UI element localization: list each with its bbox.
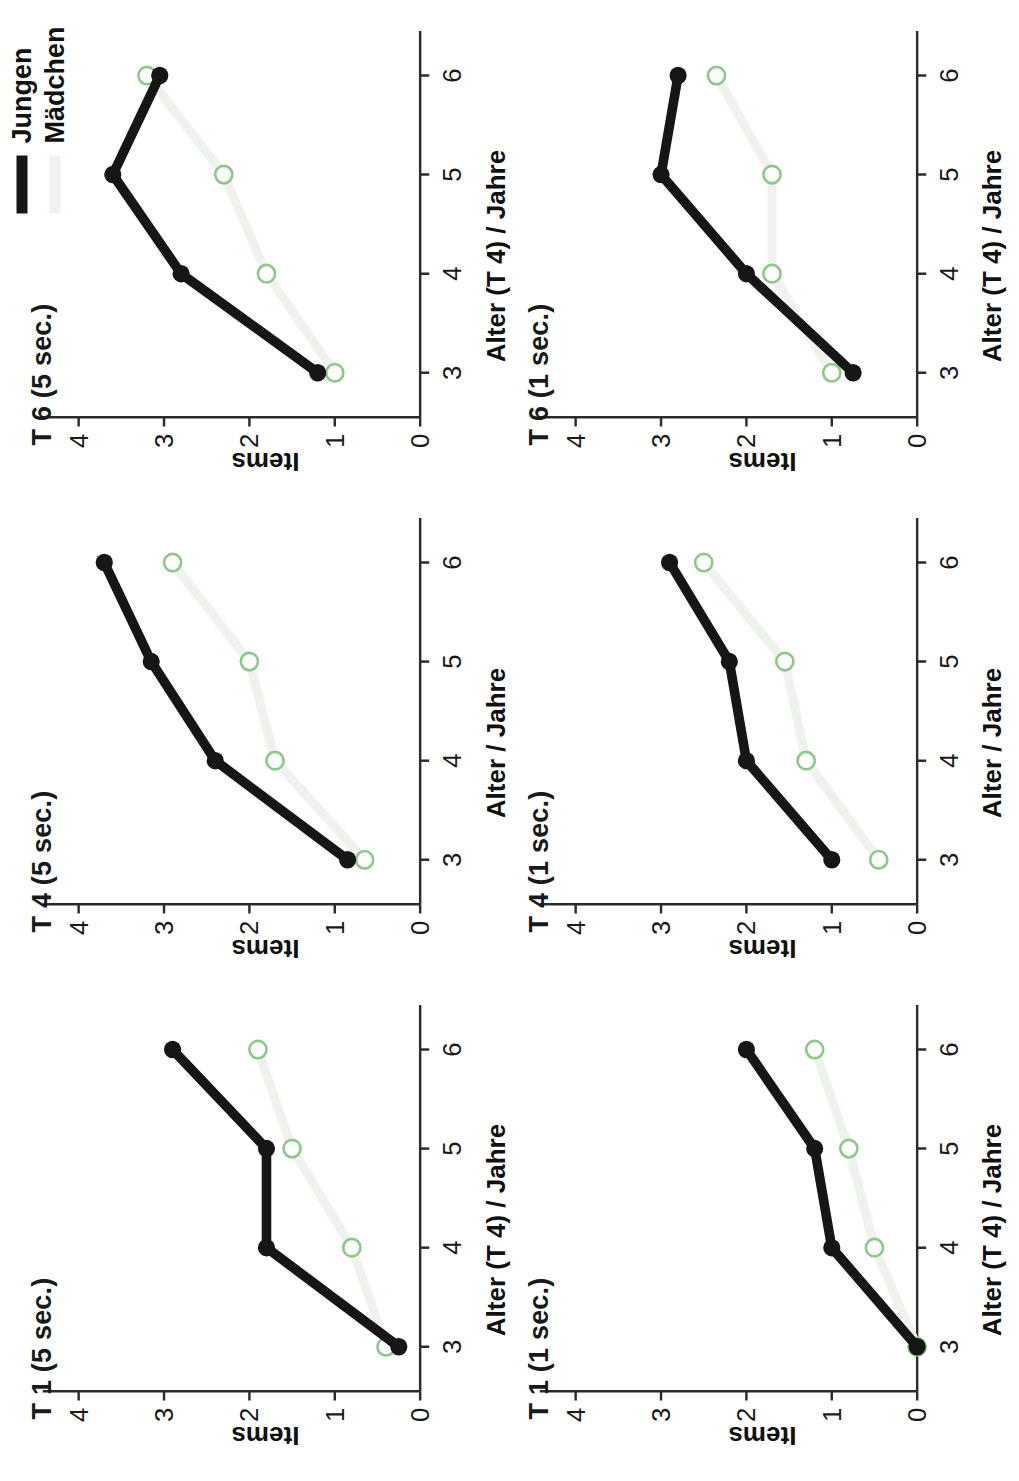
svg-text:4: 4 bbox=[64, 920, 92, 934]
svg-text:0: 0 bbox=[902, 433, 930, 447]
svg-text:0: 0 bbox=[406, 920, 434, 934]
panel-title-t6-5sec: T 6 (5 sec.) bbox=[26, 303, 57, 445]
svg-text:3: 3 bbox=[646, 433, 674, 447]
svg-text:3: 3 bbox=[437, 365, 465, 379]
plot-area-t6-1sec: 012343456 bbox=[515, 14, 1010, 497]
x-axis-label-t4-5sec: Alter / Jahre bbox=[480, 501, 511, 984]
svg-text:5: 5 bbox=[437, 1141, 465, 1155]
panel-grid: 012343456 T 1 (5 sec.) Items Alter (T 4)… bbox=[18, 14, 1009, 1471]
legend-swatch-jungen bbox=[16, 155, 27, 213]
svg-text:6: 6 bbox=[934, 555, 962, 569]
legend-entry-maedchen: Mädchen bbox=[41, 26, 68, 213]
svg-text:5: 5 bbox=[437, 654, 465, 668]
panel-t6-5sec: 012343456 T 6 (5 sec.) Items Alter (T 4)… bbox=[18, 14, 513, 497]
panel-title-t1-1sec: T 1 (1 sec.) bbox=[523, 1277, 554, 1419]
svg-text:0: 0 bbox=[902, 920, 930, 934]
figure-multi-panel: Jungen Mädchen 012343456 T 1 (5 sec.) It… bbox=[0, 0, 1019, 1481]
svg-text:4: 4 bbox=[561, 1407, 589, 1421]
y-axis-label-t4-1sec: Items bbox=[728, 933, 796, 964]
y-axis-label-t6-1sec: Items bbox=[728, 446, 796, 477]
svg-text:4: 4 bbox=[437, 1240, 465, 1254]
svg-text:4: 4 bbox=[64, 1407, 92, 1421]
svg-text:0: 0 bbox=[902, 1407, 930, 1421]
svg-text:3: 3 bbox=[437, 1339, 465, 1353]
svg-text:3: 3 bbox=[150, 433, 178, 447]
legend-entry-jungen: Jungen bbox=[8, 26, 35, 213]
plot-svg-t4-1sec: 012343456 bbox=[515, 501, 1010, 984]
svg-text:0: 0 bbox=[406, 433, 434, 447]
y-axis-label-t1-1sec: Items bbox=[728, 1420, 796, 1451]
svg-text:4: 4 bbox=[561, 433, 589, 447]
plot-svg-t1-1sec: 012343456 bbox=[515, 988, 1010, 1471]
svg-text:4: 4 bbox=[934, 753, 962, 767]
panel-title-t6-1sec: T 6 (1 sec.) bbox=[523, 303, 554, 445]
svg-text:0: 0 bbox=[406, 1407, 434, 1421]
svg-text:4: 4 bbox=[437, 753, 465, 767]
plot-svg-t6-5sec: 012343456 bbox=[18, 14, 513, 497]
x-axis-label-t1-5sec: Alter (T 4) / Jahre bbox=[480, 988, 511, 1471]
svg-text:1: 1 bbox=[321, 1407, 349, 1421]
svg-text:5: 5 bbox=[934, 1141, 962, 1155]
svg-text:3: 3 bbox=[934, 852, 962, 866]
svg-text:3: 3 bbox=[646, 1407, 674, 1421]
svg-text:5: 5 bbox=[934, 654, 962, 668]
panel-t1-5sec: 012343456 T 1 (5 sec.) Items Alter (T 4)… bbox=[18, 988, 513, 1471]
svg-text:1: 1 bbox=[817, 1407, 845, 1421]
panel-t6-1sec: 012343456 T 6 (1 sec.) Items Alter (T 4)… bbox=[515, 14, 1010, 497]
plot-area-t4-1sec: 012343456 bbox=[515, 501, 1010, 984]
svg-text:3: 3 bbox=[646, 920, 674, 934]
svg-text:4: 4 bbox=[934, 266, 962, 280]
y-axis-label-t6-5sec: Items bbox=[231, 446, 299, 477]
plot-svg-t4-5sec: 012343456 bbox=[18, 501, 513, 984]
y-axis-label-t4-5sec: Items bbox=[231, 933, 299, 964]
svg-text:1: 1 bbox=[321, 433, 349, 447]
svg-text:5: 5 bbox=[934, 167, 962, 181]
svg-text:1: 1 bbox=[321, 920, 349, 934]
svg-text:3: 3 bbox=[934, 1339, 962, 1353]
svg-text:3: 3 bbox=[437, 852, 465, 866]
plot-area-t4-5sec: 012343456 bbox=[18, 501, 513, 984]
panel-t4-5sec: 012343456 T 4 (5 sec.) Items Alter / Jah… bbox=[18, 501, 513, 984]
svg-text:4: 4 bbox=[934, 1240, 962, 1254]
svg-text:5: 5 bbox=[437, 167, 465, 181]
svg-text:1: 1 bbox=[817, 433, 845, 447]
x-axis-label-t6-5sec: Alter (T 4) / Jahre bbox=[480, 14, 511, 497]
svg-text:4: 4 bbox=[561, 920, 589, 934]
svg-text:4: 4 bbox=[437, 266, 465, 280]
x-axis-label-t6-1sec: Alter (T 4) / Jahre bbox=[976, 14, 1007, 497]
svg-text:3: 3 bbox=[934, 365, 962, 379]
plot-area-t6-5sec: 012343456 bbox=[18, 14, 513, 497]
svg-text:3: 3 bbox=[150, 1407, 178, 1421]
panel-t1-1sec: 012343456 T 1 (1 sec.) Items Alter (T 4)… bbox=[515, 988, 1010, 1471]
panel-t4-1sec: 012343456 T 4 (1 sec.) Items Alter / Jah… bbox=[515, 501, 1010, 984]
svg-text:6: 6 bbox=[437, 68, 465, 82]
svg-text:6: 6 bbox=[437, 555, 465, 569]
legend: Jungen Mädchen bbox=[8, 26, 68, 213]
plot-area-t1-5sec: 012343456 bbox=[18, 988, 513, 1471]
x-axis-label-t1-1sec: Alter (T 4) / Jahre bbox=[976, 988, 1007, 1471]
x-axis-label-t4-1sec: Alter / Jahre bbox=[976, 501, 1007, 984]
svg-text:3: 3 bbox=[150, 920, 178, 934]
panel-title-t4-5sec: T 4 (5 sec.) bbox=[26, 790, 57, 932]
legend-label-jungen: Jungen bbox=[8, 47, 35, 143]
svg-text:1: 1 bbox=[817, 920, 845, 934]
plot-area-t1-1sec: 012343456 bbox=[515, 988, 1010, 1471]
plot-svg-t6-1sec: 012343456 bbox=[515, 14, 1010, 497]
legend-label-maedchen: Mädchen bbox=[41, 26, 68, 143]
panel-title-t4-1sec: T 4 (1 sec.) bbox=[523, 790, 554, 932]
panel-title-t1-5sec: T 1 (5 sec.) bbox=[26, 1277, 57, 1419]
legend-swatch-maedchen bbox=[49, 155, 60, 213]
svg-text:4: 4 bbox=[64, 433, 92, 447]
rotated-page-stage: Jungen Mädchen 012343456 T 1 (5 sec.) It… bbox=[0, 0, 1019, 1481]
svg-text:6: 6 bbox=[934, 68, 962, 82]
plot-svg-t1-5sec: 012343456 bbox=[18, 988, 513, 1471]
svg-text:6: 6 bbox=[437, 1042, 465, 1056]
y-axis-label-t1-5sec: Items bbox=[231, 1420, 299, 1451]
svg-text:6: 6 bbox=[934, 1042, 962, 1056]
